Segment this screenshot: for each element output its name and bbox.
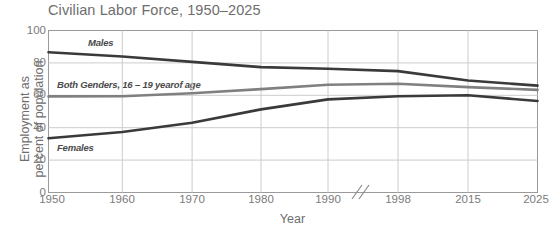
chart-container: Civilian Labor Force, 1950–2025 Employme… (0, 0, 555, 233)
vertical-gridlines (122, 31, 468, 193)
chart-plot-area (0, 0, 555, 233)
